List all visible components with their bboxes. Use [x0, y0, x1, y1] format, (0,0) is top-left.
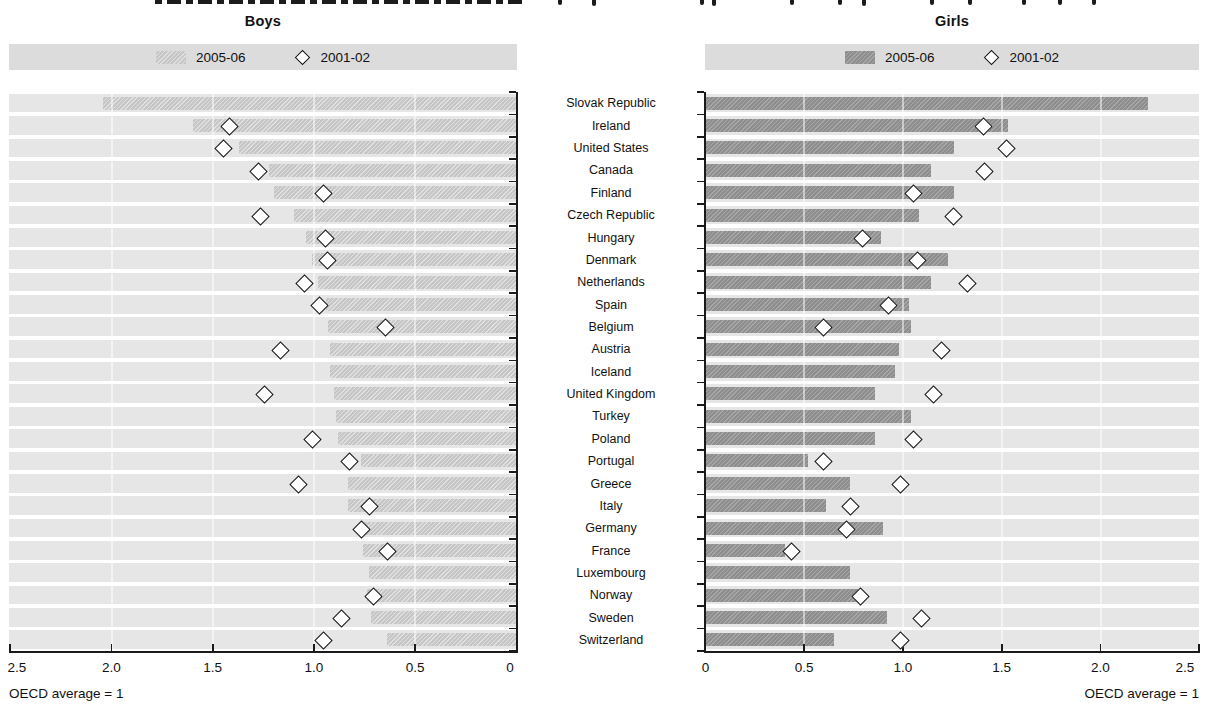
row-boundary-tick	[509, 449, 516, 451]
row-boundary-tick	[697, 248, 704, 250]
country-label: Turkey	[517, 408, 705, 424]
cropped-title-fragment-strip	[155, 0, 525, 4]
girls-panel-title: Girls	[705, 13, 1199, 31]
boys-bar	[274, 186, 517, 199]
row-boundary-tick	[697, 181, 704, 183]
boys-bar	[103, 97, 516, 110]
boys-legend-bar-label: 2005-06	[196, 50, 246, 65]
row-boundary-tick	[697, 360, 704, 362]
row-boundary-tick	[697, 315, 704, 317]
boys-bar	[334, 387, 516, 400]
country-label: Ireland	[517, 118, 705, 134]
row-boundary-tick	[697, 605, 704, 607]
country-label: France	[517, 543, 705, 559]
row-boundary-tick	[697, 225, 704, 227]
row-boundary-tick	[697, 382, 704, 384]
boys-bar	[269, 164, 516, 177]
country-label: Finland	[517, 185, 705, 201]
boys-bar	[294, 209, 517, 222]
row-boundary-tick	[509, 605, 516, 607]
row-boundary-tick	[697, 538, 704, 540]
country-label: Slovak Republic	[517, 95, 705, 111]
diamond-icon	[294, 49, 310, 65]
boys-bar	[371, 611, 517, 624]
row-boundary-tick	[697, 471, 704, 473]
country-label: United Kingdom	[517, 386, 705, 402]
row-boundary-tick	[509, 561, 516, 563]
country-label: Belgium	[517, 319, 705, 335]
girls-bar	[706, 209, 919, 222]
x-axis-label: 1.0	[292, 660, 336, 675]
row-boundary-tick	[509, 494, 516, 496]
gridline	[1001, 92, 1003, 651]
gridline	[1100, 92, 1102, 651]
boys-bar	[359, 522, 517, 535]
country-label: United States	[517, 140, 705, 156]
x-axis-label: 0	[488, 660, 532, 675]
boys-bar	[318, 276, 516, 289]
axis-tick	[1100, 644, 1102, 651]
girls-bar	[706, 410, 911, 423]
boys-bar	[361, 454, 517, 467]
row-boundary-tick	[509, 337, 516, 339]
gridline	[212, 92, 214, 651]
gridline	[111, 92, 113, 651]
row-boundary-tick	[509, 404, 516, 406]
axis-tick	[1001, 644, 1003, 651]
country-label: Poland	[517, 431, 705, 447]
x-axis-label: 1.5	[980, 660, 1024, 675]
country-label: Sweden	[517, 610, 705, 626]
row-boundary-tick	[697, 449, 704, 451]
country-label: Portugal	[517, 453, 705, 469]
row-boundary-tick	[509, 583, 516, 585]
boys-bar	[330, 365, 516, 378]
girls-bar	[706, 522, 884, 535]
x-axis-label: 1.5	[191, 660, 235, 675]
x-axis-label: 0.5	[782, 660, 826, 675]
row-boundary-tick	[697, 158, 704, 160]
row-boundary-tick	[697, 136, 704, 138]
row-boundary-tick	[697, 203, 704, 205]
oecd-average-note-left: OECD average = 1	[9, 686, 123, 701]
oecd-average-note-right: OECD average = 1	[999, 686, 1199, 701]
row-boundary-tick	[697, 516, 704, 518]
boys-bar	[306, 231, 517, 244]
axis-tick	[414, 644, 416, 651]
girls-bar	[706, 611, 888, 624]
physical-activity-figure: Boys Girls 2005-06 2001-02 2005-06 2001-…	[0, 0, 1207, 713]
x-axis-label: 1.0	[881, 660, 925, 675]
row-boundary-tick	[509, 315, 516, 317]
girls-bar	[706, 432, 876, 445]
country-label: Canada	[517, 162, 705, 178]
boys-bar	[348, 477, 516, 490]
country-label: Germany	[517, 520, 705, 536]
girls-zero-axis	[704, 92, 706, 653]
row-boundary-tick	[697, 404, 704, 406]
gridline	[414, 92, 416, 651]
country-label: Denmark	[517, 252, 705, 268]
boys-bar	[387, 633, 517, 646]
row-boundary-tick	[509, 516, 516, 518]
row-boundary-tick	[697, 494, 704, 496]
row-boundary-tick	[697, 583, 704, 585]
girls-bar	[706, 387, 876, 400]
row-boundary-tick	[697, 561, 704, 563]
boys-bar	[330, 343, 516, 356]
x-axis-label: 0.5	[393, 660, 437, 675]
boys-bar	[326, 298, 516, 311]
boys-legend-diamond-label: 2001-02	[321, 50, 371, 65]
girls-bar	[706, 499, 826, 512]
girls-bar	[706, 365, 896, 378]
country-label: Czech Republic	[517, 207, 705, 223]
row-boundary-tick	[509, 248, 516, 250]
boys-bar-swatch	[156, 51, 186, 64]
axis-tick	[1198, 644, 1200, 651]
x-axis-label: 2.0	[1079, 660, 1123, 675]
row-boundary-tick	[697, 628, 704, 630]
row-boundary-tick	[509, 360, 516, 362]
country-label: Norway	[517, 587, 705, 603]
axis-tick	[803, 644, 805, 651]
girls-legend-bar-label: 2005-06	[885, 50, 935, 65]
girls-bar	[706, 454, 809, 467]
row-boundary-tick	[697, 114, 704, 116]
